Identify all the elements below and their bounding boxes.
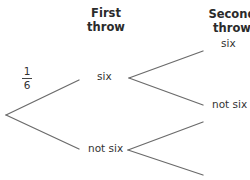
fraction-denominator: 6 bbox=[20, 80, 34, 91]
label-first-six: six bbox=[97, 70, 112, 82]
header-second-line2: throw bbox=[197, 21, 250, 35]
label-second-not-six: not six bbox=[212, 98, 247, 110]
probability-fraction: 1 6 bbox=[20, 66, 34, 91]
fraction-numerator: 1 bbox=[20, 66, 34, 77]
branch-second-not-six-from-six bbox=[129, 78, 203, 105]
header-second-line1: Second bbox=[197, 7, 250, 21]
branch-second-six-from-not-six bbox=[128, 122, 203, 150]
header-first-line2: throw bbox=[71, 20, 141, 34]
label-second-six: six bbox=[221, 37, 236, 49]
label-first-not-six: not six bbox=[88, 142, 123, 154]
header-first-throw: First throw bbox=[71, 6, 141, 34]
branch-first-not-six bbox=[6, 115, 79, 149]
header-first-line1: First bbox=[71, 6, 141, 20]
header-second-throw: Second throw bbox=[197, 7, 250, 35]
branch-first-six bbox=[6, 80, 79, 115]
branch-second-not-six-from-not-six bbox=[128, 150, 203, 175]
branch-second-six-from-six bbox=[129, 51, 203, 78]
